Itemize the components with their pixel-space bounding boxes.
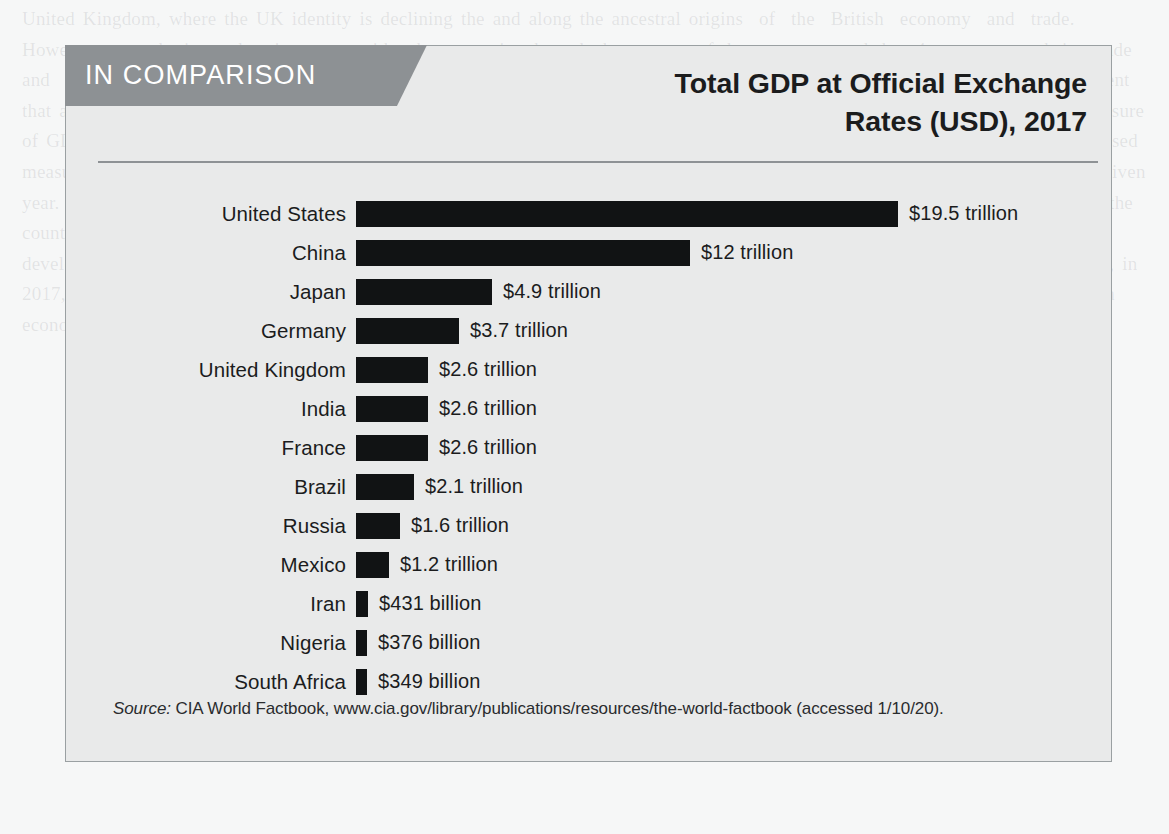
banner-label: IN COMPARISON	[65, 60, 316, 91]
bar-row: France$2.6 trillion	[66, 428, 1111, 467]
bar-row: Russia$1.6 trillion	[66, 506, 1111, 545]
bar-value-label: $2.1 trillion	[414, 475, 523, 498]
bar-category-label: Japan	[66, 280, 356, 304]
bar-category-label: Germany	[66, 319, 356, 343]
bar	[356, 396, 428, 422]
bar-value-label: $2.6 trillion	[428, 358, 537, 381]
bar-value-label: $349 billion	[367, 670, 480, 693]
bar-row: Brazil$2.1 trillion	[66, 467, 1111, 506]
bar-category-label: United Kingdom	[66, 358, 356, 382]
bar-row: United States$19.5 trillion	[66, 194, 1111, 233]
bar-row: United Kingdom$2.6 trillion	[66, 350, 1111, 389]
bar-value-label: $12 trillion	[690, 241, 793, 264]
bar	[356, 474, 414, 500]
bar-value-label: $431 billion	[368, 592, 481, 615]
bar	[356, 240, 690, 266]
bar-value-label: $2.6 trillion	[428, 397, 537, 420]
bar	[356, 513, 400, 539]
chart-title-line-1: Total GDP at Official Exchange	[487, 64, 1087, 102]
bar-category-label: United States	[66, 202, 356, 226]
bar-row: China$12 trillion	[66, 233, 1111, 272]
source-text: CIA World Factbook, www.cia.gov/library/…	[171, 699, 944, 718]
gdp-bar-chart: United States$19.5 trillionChina$12 tril…	[66, 194, 1111, 701]
bar	[356, 552, 389, 578]
source-label: Source:	[113, 699, 171, 718]
bar	[356, 318, 459, 344]
bar-category-label: India	[66, 397, 356, 421]
bar	[356, 669, 367, 695]
bar-value-label: $376 billion	[367, 631, 480, 654]
bar-value-label: $2.6 trillion	[428, 436, 537, 459]
bar-row: Iran$431 billion	[66, 584, 1111, 623]
source-note: Source: CIA World Factbook, www.cia.gov/…	[113, 699, 944, 719]
bar	[356, 279, 492, 305]
bar	[356, 630, 367, 656]
bar-category-label: South Africa	[66, 670, 356, 694]
bar	[356, 201, 898, 227]
bar-row: Germany$3.7 trillion	[66, 311, 1111, 350]
bar-category-label: Russia	[66, 514, 356, 538]
bar-category-label: Iran	[66, 592, 356, 616]
bar	[356, 591, 368, 617]
bar-row: Mexico$1.2 trillion	[66, 545, 1111, 584]
bar	[356, 357, 428, 383]
bar-row: India$2.6 trillion	[66, 389, 1111, 428]
bar-value-label: $1.2 trillion	[389, 553, 498, 576]
bar-value-label: $1.6 trillion	[400, 514, 509, 537]
chart-title-line-2: Rates (USD), 2017	[487, 102, 1087, 140]
chart-title: Total GDP at Official Exchange Rates (US…	[487, 64, 1087, 140]
bar-value-label: $4.9 trillion	[492, 280, 601, 303]
bar-category-label: Nigeria	[66, 631, 356, 655]
in-comparison-panel: IN COMPARISON Total GDP at Official Exch…	[65, 45, 1112, 762]
bar-category-label: Brazil	[66, 475, 356, 499]
bar-row: South Africa$349 billion	[66, 662, 1111, 701]
bar	[356, 435, 428, 461]
title-divider-rule	[98, 161, 1098, 163]
bar-category-label: China	[66, 241, 356, 265]
bar-category-label: Mexico	[66, 553, 356, 577]
bar-category-label: France	[66, 436, 356, 460]
bar-value-label: $3.7 trillion	[459, 319, 568, 342]
bar-value-label: $19.5 trillion	[898, 202, 1018, 225]
bar-row: Japan$4.9 trillion	[66, 272, 1111, 311]
bar-row: Nigeria$376 billion	[66, 623, 1111, 662]
in-comparison-banner: IN COMPARISON	[65, 45, 427, 106]
